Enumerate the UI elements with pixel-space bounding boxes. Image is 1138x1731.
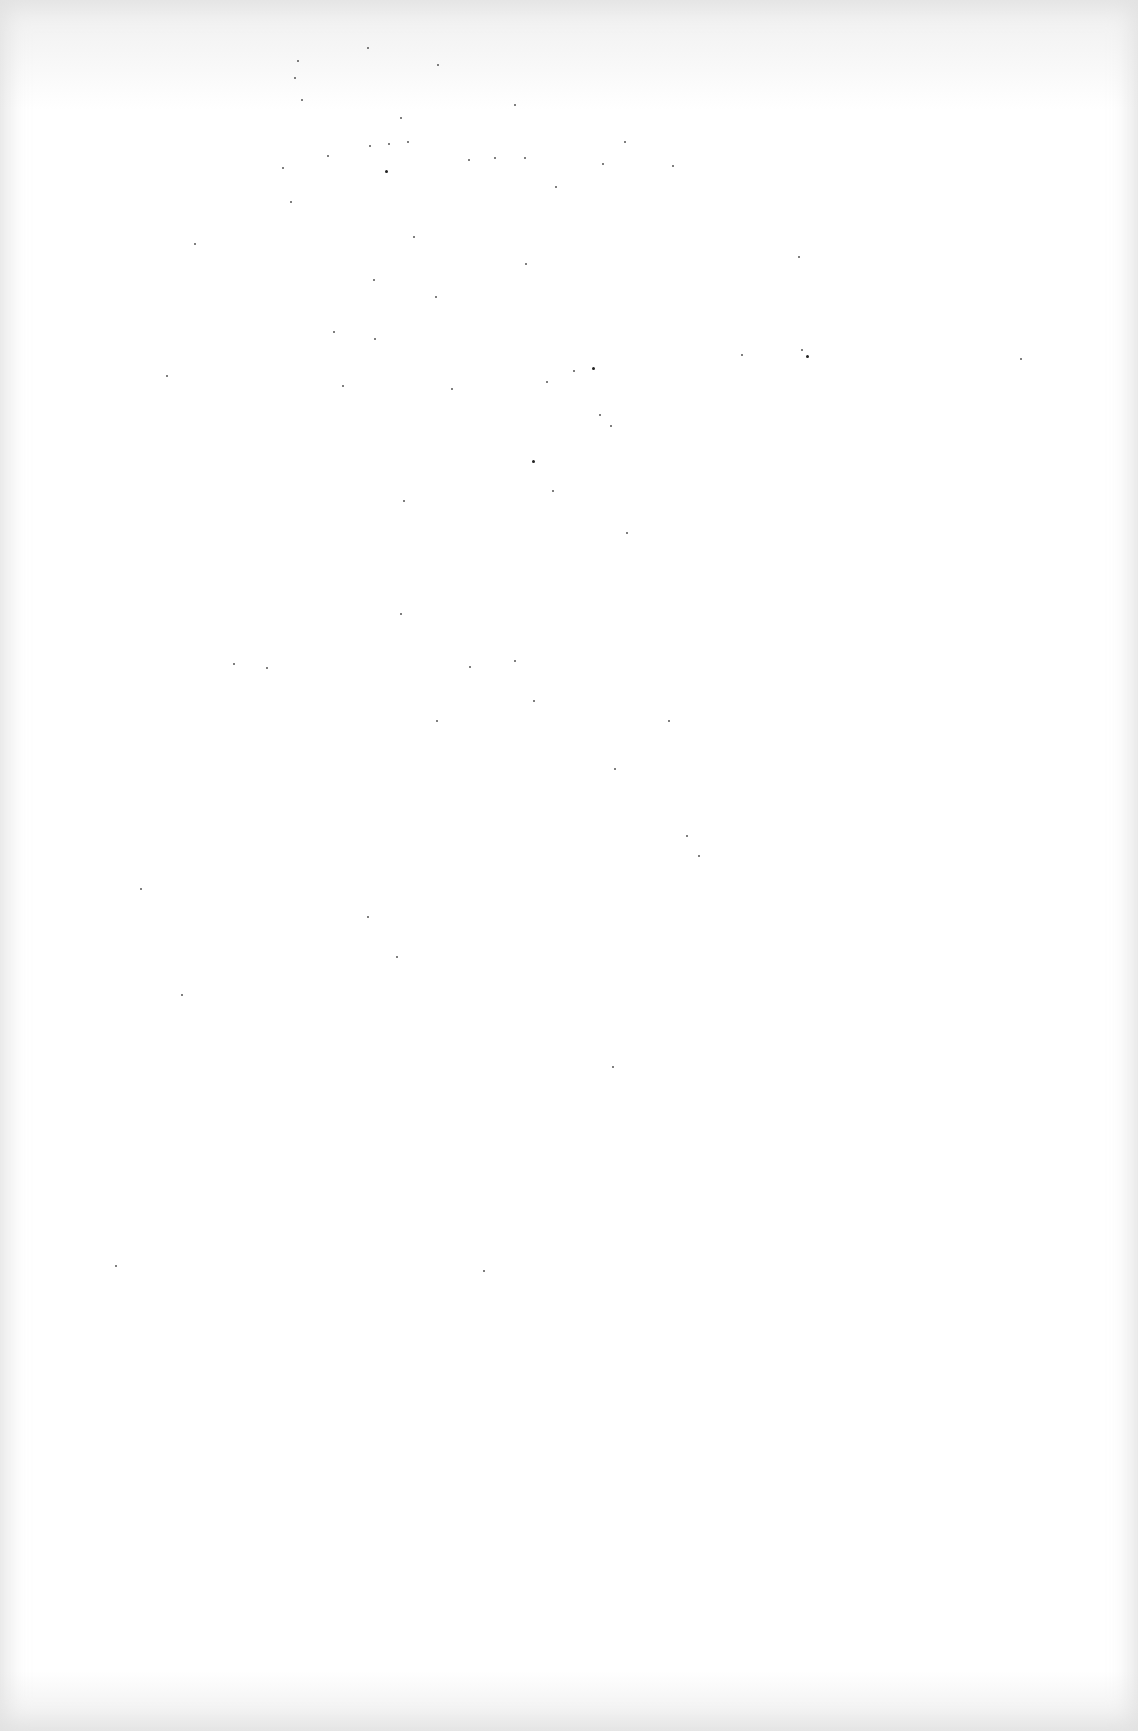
dust-speck [388,143,390,145]
dust-speck [436,720,438,722]
dust-speck [801,349,803,351]
dust-speck [698,855,700,857]
dust-speck [552,490,554,492]
dust-speck [342,385,344,387]
dust-speck [626,532,628,534]
dust-speck [166,375,168,377]
bottom-edge-shading [0,1671,1138,1731]
dust-speck [798,256,800,258]
dust-speck [514,660,516,662]
dust-speck [468,159,470,161]
dust-speck [599,414,601,416]
dust-speck [194,243,196,245]
dust-speck [407,141,409,143]
dust-speck [624,141,626,143]
dust-speck [435,296,437,298]
dust-speck [469,666,471,668]
blank-scanned-page [0,0,1138,1731]
dust-speck [686,835,688,837]
dust-speck [806,355,809,358]
dust-speck [282,167,284,169]
dust-speck [546,381,548,383]
dust-speck [573,370,575,372]
dust-speck [437,64,439,66]
dust-speck [266,667,268,669]
dust-speck [672,165,674,167]
dust-speck [327,155,329,157]
dust-speck [294,77,296,79]
dust-speck [400,117,402,119]
dust-speck [602,163,604,165]
dust-speck [181,994,183,996]
dust-speck [374,338,376,340]
dust-speck [396,956,398,958]
dust-speck [333,331,335,333]
dust-speck [494,157,496,159]
dust-speck [533,700,535,702]
dust-speck [233,663,235,665]
dust-speck [592,367,595,370]
dust-speck [614,768,616,770]
dust-speck [385,170,388,173]
dust-speck [514,104,516,106]
dust-speck [525,263,527,265]
dust-speck [400,613,402,615]
dust-speck [451,388,453,390]
dust-speck [301,99,303,101]
dust-speck [612,1066,614,1068]
dust-speck [1020,358,1022,360]
dust-speck [668,720,670,722]
dust-speck [741,354,743,356]
dust-speck [373,279,375,281]
top-edge-shading [0,0,1138,110]
dust-speck [367,916,369,918]
dust-speck [290,201,292,203]
dust-speck [532,460,535,463]
dust-speck [367,47,369,49]
dust-speck [524,157,526,159]
dust-speck [483,1270,485,1272]
dust-speck [369,145,371,147]
dust-speck [610,425,612,427]
dust-speck [555,186,557,188]
dust-speck [115,1265,117,1267]
dust-speck [413,236,415,238]
dust-speck [403,500,405,502]
dust-speck [297,60,299,62]
dust-speck [140,888,142,890]
